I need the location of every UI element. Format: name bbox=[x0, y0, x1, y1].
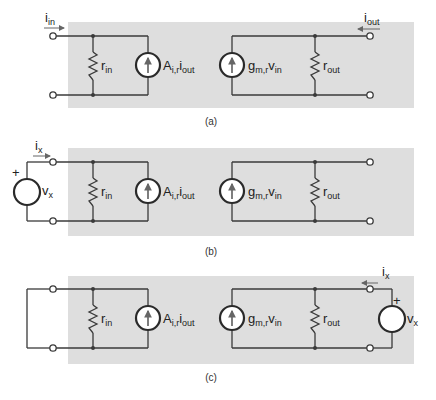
input-terminal-top bbox=[50, 159, 56, 165]
input-terminal-top bbox=[50, 33, 56, 39]
caption-c: (c) bbox=[205, 372, 217, 383]
output-terminal-bottom bbox=[367, 92, 373, 98]
input-terminal-bottom bbox=[50, 218, 56, 224]
test-current-label: ix bbox=[382, 264, 390, 281]
test-voltage-label: vx bbox=[42, 183, 54, 200]
output-terminal-top bbox=[367, 286, 373, 292]
input-terminal-bottom bbox=[50, 345, 56, 351]
voltage-source-icon bbox=[14, 179, 40, 205]
output-current-label: iout bbox=[364, 10, 380, 27]
output-terminal-top bbox=[367, 159, 373, 165]
panel-a: iin rin Ai,riout gm,rvin rout iout (a) bbox=[44, 10, 414, 127]
panel-c: rin Ai,riout gm,rvin rout + vx ix (c) bbox=[27, 264, 419, 383]
test-voltage-label: vx bbox=[407, 311, 419, 328]
panel-b: ix + vx rin Ai,riout gm,rvin rout bbox=[12, 138, 414, 257]
test-current-label: ix bbox=[35, 138, 43, 155]
caption-a: (a) bbox=[205, 116, 217, 127]
input-terminal-bottom bbox=[50, 92, 56, 98]
input-terminal-top bbox=[50, 286, 56, 292]
voltage-source-icon bbox=[379, 306, 405, 332]
output-terminal-top bbox=[367, 33, 373, 39]
polarity-plus: + bbox=[12, 165, 20, 180]
polarity-plus: + bbox=[393, 293, 401, 308]
output-terminal-bottom bbox=[367, 218, 373, 224]
input-current-label: iin bbox=[45, 10, 55, 27]
output-terminal-bottom bbox=[367, 345, 373, 351]
caption-b: (b) bbox=[205, 246, 217, 257]
circuit-diagram: iin rin Ai,riout gm,rvin rout iout (a) bbox=[0, 0, 436, 400]
